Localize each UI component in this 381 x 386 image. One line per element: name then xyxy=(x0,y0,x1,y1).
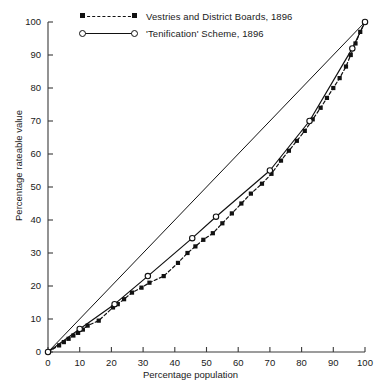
legend-item-tenification: 'Tenification' Scheme, 1896 xyxy=(78,25,293,42)
x-tick-10: 10 xyxy=(67,357,93,368)
x-tick-60: 60 xyxy=(225,357,251,368)
equality-reference-line xyxy=(48,22,365,352)
y-tick-30: 30 xyxy=(15,247,41,258)
legend-item-vestries: Vestries and District Boards, 1896 xyxy=(78,8,293,25)
x-tick-50: 50 xyxy=(194,357,220,368)
legend-label-vestries: Vestries and District Boards, 1896 xyxy=(140,12,293,22)
x-axis-title: Percentage population xyxy=(0,369,381,380)
chart-plot-area xyxy=(0,0,381,386)
y-tick-70: 70 xyxy=(15,115,41,126)
legend-label-tenification: 'Tenification' Scheme, 1896 xyxy=(140,29,264,39)
x-tick-30: 30 xyxy=(130,357,156,368)
chart-legend: Vestries and District Boards, 1896 'Teni… xyxy=(78,8,293,42)
y-tick-0: 0 xyxy=(15,346,41,357)
y-tick-20: 20 xyxy=(15,280,41,291)
y-tick-40: 40 xyxy=(15,214,41,225)
x-tick-90: 90 xyxy=(320,357,346,368)
y-tick-100: 100 xyxy=(15,16,41,27)
x-tick-0: 0 xyxy=(35,357,61,368)
y-tick-10: 10 xyxy=(15,313,41,324)
y-tick-90: 90 xyxy=(15,49,41,60)
legend-key-filled-square-dashed-icon xyxy=(78,11,140,23)
x-tick-80: 80 xyxy=(289,357,315,368)
x-tick-100: 100 xyxy=(352,357,378,368)
y-tick-50: 50 xyxy=(15,181,41,192)
y-tick-80: 80 xyxy=(15,82,41,93)
y-tick-60: 60 xyxy=(15,148,41,159)
x-tick-70: 70 xyxy=(257,357,283,368)
legend-key-open-circle-solid-icon xyxy=(78,28,140,40)
x-tick-40: 40 xyxy=(162,357,188,368)
x-tick-20: 20 xyxy=(98,357,124,368)
chart-figure: Vestries and District Boards, 1896 'Teni… xyxy=(0,0,381,386)
